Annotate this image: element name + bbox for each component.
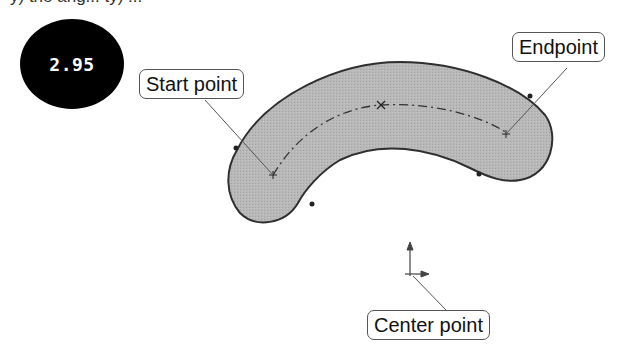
- start-point-callout: Start point: [139, 69, 244, 99]
- arc-slot-shape: [228, 62, 552, 222]
- edge-vertex-dot: [528, 94, 533, 99]
- origin-axes-icon: [405, 242, 429, 277]
- center-point-leader: [413, 276, 447, 311]
- center-point-callout: Center point: [367, 310, 490, 340]
- edge-vertex-dot: [234, 146, 239, 151]
- edge-vertex-dot: [310, 202, 315, 207]
- endpoint-callout: Endpoint: [512, 32, 605, 62]
- edge-vertex-dot: [477, 172, 482, 177]
